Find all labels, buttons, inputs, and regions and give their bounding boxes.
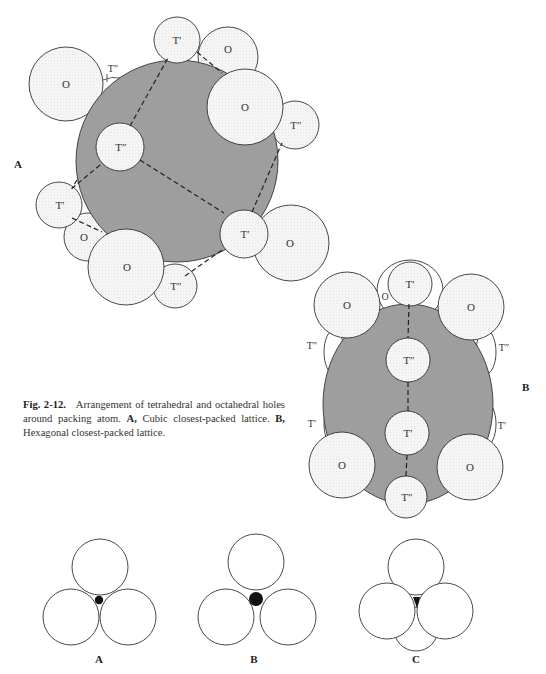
bottom-label-c: C (412, 653, 420, 665)
figure-number: Fig. 2-12. (23, 399, 66, 410)
hole-label: T″ (307, 340, 317, 351)
hole-label: T′ (403, 427, 412, 439)
bottom-label-a: A (95, 653, 103, 665)
caption-part-b-text: Hexagonal closest-packed lattice. (23, 427, 165, 438)
hole-label: O (224, 43, 232, 55)
hole-label: T″ (170, 280, 181, 292)
hole-label: T″ (403, 354, 414, 366)
bottom-panel-a (43, 539, 156, 645)
panel-b-letter: B (522, 381, 530, 393)
hole-label: T′ (240, 228, 249, 240)
void-dot (95, 596, 103, 604)
hole-label: T″ (499, 342, 509, 353)
bottom-panel-c (359, 539, 473, 651)
bottom-label-b: B (250, 653, 258, 665)
hole-label: T″ (401, 491, 412, 503)
bottom-panel-b (198, 534, 316, 645)
void-dot (249, 592, 263, 606)
hole-label: O (123, 261, 131, 273)
hole-label: T′ (308, 418, 316, 429)
hole-label: T″ (115, 141, 126, 153)
hole-label: T′ (55, 199, 64, 211)
panel-b-diagram (309, 260, 504, 518)
caption-part-b-label: B, (275, 413, 285, 424)
figure-canvas: O T′ O O T″ T″ T′ O O T″ T′ O T″ A (0, 0, 546, 674)
panel-a-letter: A (14, 158, 22, 170)
panel-a-diagram (29, 17, 329, 308)
caption-part-a-label: A, (127, 413, 137, 424)
hole-label: T′ (172, 34, 181, 46)
hole-label: O (286, 237, 294, 249)
figure-caption: Fig. 2-12. Arrangement of tetrahedral an… (23, 398, 285, 440)
hole-label: T″ (108, 63, 118, 74)
hole-label: T′ (498, 420, 506, 431)
hole-label: O (80, 231, 88, 243)
bottom-panel-labels: A B C (95, 653, 420, 665)
hole-label: O (381, 291, 388, 302)
hole-label: O (338, 459, 346, 471)
caption-part-a-text: Cubic closest-packed lattice. (142, 413, 269, 424)
hole-label: T″ (290, 119, 301, 131)
hole-label: O (241, 101, 249, 113)
hole-label: O (62, 78, 70, 90)
hole-label: O (343, 299, 351, 311)
hole-label: O (467, 301, 475, 313)
hole-label: O (466, 461, 474, 473)
hole-label: T′ (405, 278, 414, 290)
